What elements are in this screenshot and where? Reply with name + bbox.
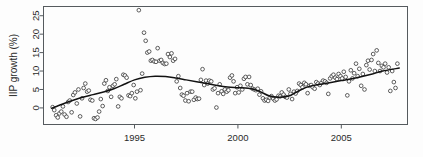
data-point <box>90 99 94 103</box>
data-point <box>144 39 148 43</box>
data-point <box>326 92 330 96</box>
data-point <box>116 105 120 109</box>
data-point <box>382 65 386 69</box>
data-point <box>354 62 358 66</box>
data-point <box>199 78 203 82</box>
data-point <box>147 50 151 54</box>
data-point <box>306 91 310 95</box>
data-point <box>178 86 182 90</box>
data-point <box>99 97 103 101</box>
data-point <box>232 80 236 84</box>
data-point <box>170 51 174 55</box>
data-point <box>201 67 205 71</box>
data-point <box>154 60 158 64</box>
data-point <box>209 80 213 84</box>
data-point <box>221 92 225 96</box>
x-tick-label: 1995 <box>124 132 145 143</box>
data-point <box>77 88 81 92</box>
data-point <box>120 96 124 100</box>
data-point <box>345 94 349 98</box>
data-point <box>139 88 143 92</box>
data-point <box>109 95 113 99</box>
data-point <box>349 68 353 72</box>
y-tick-label: 5 <box>30 87 41 92</box>
x-tick-label: 2000 <box>227 132 248 143</box>
y-tick-label: 20 <box>30 29 41 40</box>
data-point <box>156 46 160 50</box>
data-point <box>385 71 389 75</box>
data-point <box>185 91 189 95</box>
data-point <box>387 65 391 69</box>
data-point <box>135 90 139 94</box>
data-point <box>237 91 241 95</box>
data-point <box>78 115 82 119</box>
data-point <box>82 86 86 90</box>
data-point <box>132 83 136 87</box>
data-point <box>187 99 191 103</box>
data-point <box>83 82 87 86</box>
data-point <box>130 91 134 95</box>
data-point <box>175 80 179 84</box>
data-point <box>190 90 194 94</box>
data-point <box>383 62 387 66</box>
data-point <box>368 68 372 72</box>
data-point <box>70 110 74 114</box>
data-point <box>87 89 91 93</box>
data-point <box>73 91 77 95</box>
data-point <box>59 110 63 114</box>
data-point <box>290 97 294 101</box>
data-point <box>197 97 201 101</box>
data-point <box>352 71 356 75</box>
data-point <box>101 104 105 108</box>
data-point <box>65 115 69 119</box>
data-point <box>394 86 398 90</box>
data-point <box>142 31 146 35</box>
data-point <box>125 76 129 80</box>
data-point <box>182 94 186 98</box>
data-point <box>357 67 361 71</box>
plot-background <box>0 0 423 157</box>
data-point <box>313 87 317 91</box>
data-point <box>392 80 396 84</box>
y-tick-label: 0 <box>30 105 41 110</box>
data-point <box>52 108 56 112</box>
data-point <box>113 82 117 86</box>
data-point <box>342 70 346 74</box>
data-point <box>165 62 169 66</box>
data-point <box>371 52 375 56</box>
data-point <box>388 89 392 93</box>
data-point <box>247 75 251 79</box>
data-point <box>230 74 234 78</box>
data-point <box>216 91 220 95</box>
y-tick-label: 10 <box>30 66 41 77</box>
chart-figure: 1995200020050510152025IIP growth (%) <box>0 0 423 157</box>
data-point <box>249 83 253 87</box>
data-point <box>304 82 308 86</box>
data-point <box>244 75 248 79</box>
data-point <box>344 75 348 79</box>
data-point <box>56 116 60 120</box>
data-point <box>168 55 172 59</box>
data-point <box>233 91 237 95</box>
data-point <box>213 87 217 91</box>
data-point <box>396 62 400 66</box>
y-tick-label: 15 <box>30 47 41 58</box>
data-point <box>75 102 79 106</box>
data-point <box>137 8 141 12</box>
data-point <box>287 88 291 92</box>
y-axis-title: IIP growth (%) <box>8 34 19 97</box>
data-point <box>96 116 100 120</box>
data-point <box>227 88 231 92</box>
data-point <box>363 88 367 92</box>
data-point <box>370 58 374 62</box>
data-point <box>366 59 370 63</box>
data-point <box>376 61 380 65</box>
data-point <box>364 63 368 67</box>
data-point <box>275 98 279 102</box>
data-point <box>114 77 118 81</box>
data-point <box>133 96 137 100</box>
data-point <box>97 110 101 114</box>
data-point <box>375 49 379 53</box>
x-tick-label: 2005 <box>331 132 352 143</box>
y-tick-label: 25 <box>30 10 41 21</box>
